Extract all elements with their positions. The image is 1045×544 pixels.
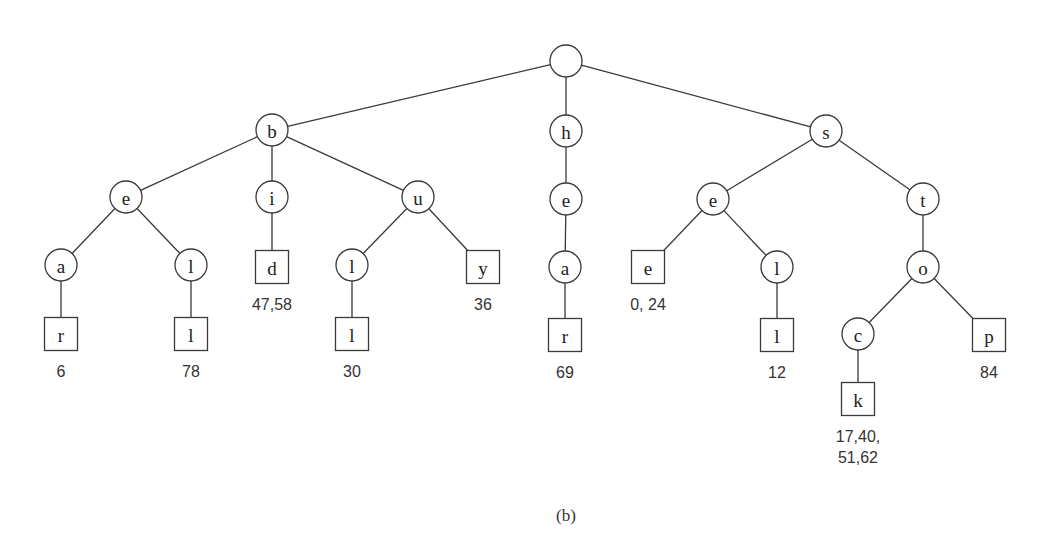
- node-letter: l: [188, 325, 193, 346]
- node-letter: i: [269, 188, 274, 209]
- edge-s-t-o-to-s-t-o-c: [869, 278, 912, 322]
- node-letter: l: [188, 256, 193, 277]
- occurrence-positions: 17,40,: [836, 428, 880, 445]
- internal-node-b-e-a: a: [45, 249, 77, 281]
- edge-b-e-to-b-e-l: [137, 209, 180, 254]
- node-letter: e: [122, 188, 130, 209]
- internal-node-s-t: t: [907, 183, 939, 215]
- node-letter: p: [984, 326, 994, 347]
- figure-caption: (b): [556, 506, 576, 525]
- occurrence-positions: 6: [57, 363, 66, 380]
- edge-root-to-s: [581, 65, 810, 127]
- internal-node-h-e: e: [550, 183, 582, 215]
- internal-node-s-e-l: l: [761, 251, 793, 283]
- node-letter: r: [562, 326, 569, 347]
- node-letter: o: [918, 258, 928, 279]
- leaf-node-b-u-y: y: [467, 251, 500, 284]
- edge-b-u-to-b-u-y: [429, 209, 468, 251]
- node-letter: k: [853, 390, 863, 411]
- trie-diagram: bhseiueetaldlyaelorllrlcpk 47,58360, 246…: [0, 0, 1045, 544]
- occurrence-positions: 0, 24: [630, 296, 666, 313]
- node-letter: s: [822, 122, 829, 143]
- node-letter: h: [561, 122, 571, 143]
- leaf-node-h-e-a-r: r: [549, 319, 582, 352]
- internal-node-s-e: e: [697, 183, 729, 215]
- occurrence-positions: 69: [556, 364, 574, 381]
- node-letter: t: [920, 190, 926, 211]
- node-letter: a: [561, 258, 570, 279]
- internal-node-b-e-l: l: [175, 249, 207, 281]
- leaf-node-b-e-a-r: r: [45, 318, 78, 351]
- leaf-node-b-u-l-l: l: [336, 318, 369, 351]
- occurrence-positions: 51,62: [838, 449, 878, 466]
- leaf-node-s-e-l-l: l: [761, 319, 794, 352]
- node-letter: u: [413, 188, 423, 209]
- internal-node-b-u: u: [402, 181, 434, 213]
- occurrence-positions: 84: [980, 364, 998, 381]
- node-letter: r: [58, 325, 65, 346]
- leaf-node-s-t-o-p: p: [973, 319, 1006, 352]
- occurrence-positions: 12: [768, 364, 786, 381]
- internal-node-h-e-a: a: [549, 251, 581, 283]
- node-letter: a: [57, 256, 66, 277]
- leaf-node-s-t-o-c-k: k: [842, 383, 875, 416]
- internal-node-b-u-l: l: [336, 249, 368, 281]
- leaf-node-b-i-d: d: [256, 251, 289, 284]
- occurrence-positions: 36: [474, 296, 492, 313]
- internal-node-s: s: [810, 115, 842, 147]
- leaf-node-s-e-e: e: [632, 251, 665, 284]
- edge-s-to-s-e: [727, 139, 813, 191]
- edge-s-e-to-s-e-l: [724, 211, 766, 256]
- trie-nodes: bhseiueetaldlyaelorllrlcpk: [45, 45, 1006, 416]
- node-letter: e: [644, 258, 652, 279]
- node-letter: l: [774, 326, 779, 347]
- internal-node-b-e: e: [110, 181, 142, 213]
- node-letter: c: [854, 325, 862, 346]
- node-letter: e: [709, 190, 717, 211]
- edge-b-e-to-b-e-a: [72, 209, 115, 254]
- internal-node-s-t-o: o: [907, 251, 939, 283]
- internal-node-h: h: [550, 115, 582, 147]
- edge-root-to-b: [288, 65, 551, 127]
- node-letter: l: [349, 325, 354, 346]
- edge-s-t-o-to-s-t-o-p: [934, 278, 973, 318]
- occurrence-positions: 30: [343, 363, 361, 380]
- edge-s-e-to-s-e-e: [664, 211, 702, 251]
- edge-b-to-b-u: [287, 137, 404, 191]
- edge-s-to-s-t: [839, 140, 910, 190]
- node-letter: b: [267, 121, 277, 142]
- node-letter: e: [562, 190, 570, 211]
- internal-node-b-i: i: [256, 181, 288, 213]
- edge-b-to-b-e: [141, 137, 258, 191]
- circle-node-shape: [550, 45, 582, 77]
- edge-h-e-to-h-e-a: [565, 215, 566, 251]
- node-letter: y: [478, 258, 488, 279]
- node-letter: l: [774, 258, 779, 279]
- node-letter: d: [267, 258, 277, 279]
- edge-b-u-to-b-u-l: [363, 208, 407, 253]
- internal-node-b: b: [256, 114, 288, 146]
- internal-node-s-t-o-c: c: [842, 318, 874, 350]
- leaf-node-b-e-l-l: l: [175, 318, 208, 351]
- occurrence-positions: 47,58: [252, 296, 292, 313]
- node-letter: l: [349, 256, 354, 277]
- internal-node-root: [550, 45, 582, 77]
- occurrence-positions: 78: [182, 363, 200, 380]
